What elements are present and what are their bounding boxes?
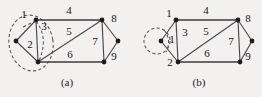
edge-label-a-3: 3 [41,20,47,32]
graph-a: 1 2 3 4 5 6 7 8 9 (a) [5,4,121,89]
edge-a-3 [36,20,38,62]
edge-label-b-9: 9 [245,50,251,62]
edge-label-b-4: 4 [203,4,209,16]
dashed-self-loop-b [144,28,170,54]
edge-label-a-7: 7 [92,35,98,47]
vertex-a-bottom [36,60,41,65]
edge-label-a-1: 1 [21,8,27,20]
caption-b: (b) [193,76,206,89]
edge-label-b-3: 3 [182,26,188,38]
vertex-b-bottom-right [238,60,243,65]
graph-figure-svg: 1 2 3 4 5 6 7 8 9 (a) [0,0,262,97]
vertex-b-bottom [176,60,181,65]
edge-a-1 [16,20,36,41]
edge-label-b-1: 1 [169,33,175,45]
graph-b: 1 3 4 5 6 7 8 9 1 2 (b) [144,4,254,89]
vertex-label-b-1: 1 [166,7,172,19]
vertex-a-bottom-right [102,60,107,65]
edge-label-b-8: 8 [245,12,251,24]
edge-label-a-2: 2 [27,38,33,50]
edge-label-b-5: 5 [203,25,209,37]
edge-label-a-8: 8 [111,12,117,24]
caption-a: (a) [61,76,74,89]
edge-b-3 [176,20,178,62]
edge-label-a-6: 6 [67,48,73,60]
edge-label-b-6: 6 [204,47,210,59]
vertex-b-right [236,18,241,23]
vertex-a-right [100,18,105,23]
vertex-a-left [14,39,19,44]
edge-a-7 [102,20,104,62]
edge-label-a-4: 4 [66,4,72,16]
edge-label-a-5: 5 [66,25,72,37]
figure-graph-contraction: 1 2 3 4 5 6 7 8 9 (a) [0,0,262,97]
vertex-a-top [34,18,39,23]
edge-label-b-7: 7 [228,35,234,47]
edge-label-a-9: 9 [111,50,117,62]
vertex-b-left [159,39,164,44]
vertex-a-far [116,39,121,44]
edge-b-7 [238,20,240,62]
vertex-b-far [250,39,255,44]
vertex-b-top [174,18,179,23]
vertex-label-b-2: 2 [167,56,173,68]
